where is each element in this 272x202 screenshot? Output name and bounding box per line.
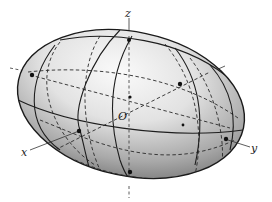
- y-axis-label: y: [250, 142, 258, 155]
- origin-label: O: [118, 110, 127, 123]
- ellipsoid-diagram: z O x y: [0, 0, 272, 202]
- z-axis-label: z: [124, 7, 131, 20]
- x-axis-label: x: [21, 146, 28, 159]
